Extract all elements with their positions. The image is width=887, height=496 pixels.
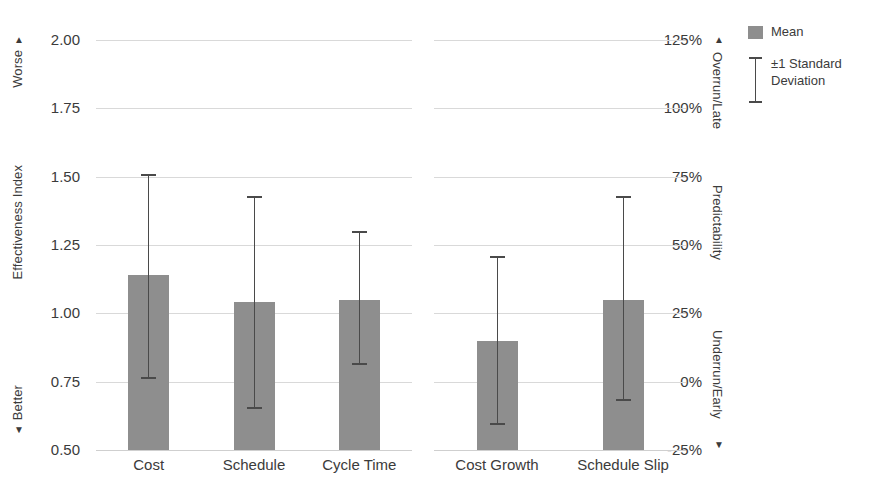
legend-label-stddev-line2: Deviation — [771, 73, 825, 88]
left-axis-worse-label: Worse — [10, 50, 25, 88]
gridline — [434, 177, 686, 178]
x-axis-label: Cycle Time — [299, 456, 420, 473]
error-bar-stem — [497, 256, 498, 425]
legend-item-stddev: ±1 Standard Deviation — [748, 56, 880, 103]
legend-swatch-icon — [748, 26, 763, 39]
left-tick-label: 0.50 — [34, 442, 80, 457]
error-bar-stem — [254, 196, 255, 409]
bar-group — [603, 40, 644, 450]
error-bar-icon — [748, 57, 763, 103]
x-axis-label: Cost Growth — [437, 456, 558, 473]
gridline — [434, 245, 686, 246]
left-tick-label: 1.50 — [34, 169, 80, 184]
bar-group — [128, 40, 169, 450]
bar-group — [339, 40, 380, 450]
underrun-arrow-icon: ▼ — [714, 440, 724, 450]
legend-label-stddev: ±1 Standard Deviation — [771, 56, 842, 89]
gridline — [434, 450, 686, 451]
gridline — [434, 382, 686, 383]
right-axis-title: Predictability — [710, 185, 725, 260]
x-axis-label: Schedule — [194, 456, 315, 473]
error-bar-cap-lower — [490, 423, 505, 425]
gridline — [434, 313, 686, 314]
worse-arrow-icon: ▲ — [14, 35, 24, 45]
bar-group — [477, 40, 518, 450]
right-axis-underrun-label: Underrun/Early — [710, 330, 725, 419]
error-bar-cap-upper — [352, 231, 367, 233]
gridline — [434, 40, 686, 41]
right-axis-overrun-label: Overrun/Late — [710, 52, 725, 129]
error-bar-cap-lower — [352, 363, 367, 365]
error-bar-cap-upper — [247, 196, 262, 198]
left-tick-label: 1.00 — [34, 305, 80, 320]
error-bar-stem — [623, 196, 624, 401]
gridline — [96, 450, 412, 451]
left-axis-title: Effectiveness Index — [10, 165, 25, 279]
x-axis-label: Cost — [88, 456, 209, 473]
gridline — [434, 108, 686, 109]
legend-label-mean: Mean — [771, 24, 804, 40]
left-tick-label: 2.00 — [34, 32, 80, 47]
x-axis-label: Schedule Slip — [563, 456, 684, 473]
left-tick-label: 1.75 — [34, 100, 80, 115]
error-bar-cap-upper — [490, 256, 505, 258]
better-arrow-icon: ▼ — [14, 425, 24, 435]
error-bar-cap-lower — [616, 399, 631, 401]
error-bar-cap-lower — [141, 377, 156, 379]
left-axis-better-label: Better — [10, 385, 25, 420]
plot-panel-effectiveness — [96, 40, 412, 450]
left-tick-label: 0.75 — [34, 374, 80, 389]
error-bar-stem — [148, 174, 149, 379]
plot-panel-predictability — [434, 40, 686, 450]
left-tick-label: 1.25 — [34, 237, 80, 252]
overrun-arrow-icon: ▲ — [714, 35, 724, 45]
error-bar-cap-upper — [616, 196, 631, 198]
chart-legend: Mean ±1 Standard Deviation — [748, 24, 880, 119]
error-bar-cap-lower — [247, 407, 262, 409]
error-bar-cap-upper — [141, 174, 156, 176]
error-bar-stem — [359, 231, 360, 365]
legend-label-stddev-line1: ±1 Standard — [771, 56, 842, 71]
bar-group — [234, 40, 275, 450]
legend-item-mean: Mean — [748, 24, 880, 40]
chart-figure: ▲ Worse Effectiveness Index Better ▼ 2.0… — [0, 0, 887, 496]
